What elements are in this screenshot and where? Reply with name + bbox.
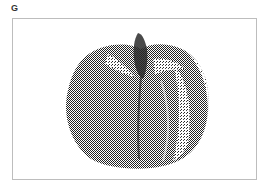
stippled-pumpkin-image bbox=[13, 19, 258, 181]
image-frame bbox=[12, 18, 257, 180]
panel-label: G bbox=[11, 3, 18, 13]
